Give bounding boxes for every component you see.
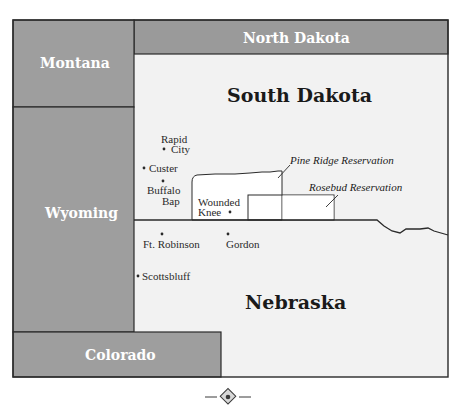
- rapid-city-dot: [163, 148, 166, 151]
- label-wyoming: Wyoming: [45, 206, 118, 220]
- ft-robinson-dot: [161, 233, 164, 236]
- label-pine-ridge: Pine Ridge Reservation: [290, 155, 394, 166]
- label-scottsbluff: Scottsbluff: [142, 271, 190, 282]
- label-rosebud: Rosebud Reservation: [309, 182, 402, 193]
- diamond-ornament-icon: [205, 389, 251, 405]
- label-montana: Montana: [40, 56, 110, 70]
- map-figure: Montana North Dakota Wyoming Colorado So…: [0, 0, 473, 406]
- region-rosebud-fill: [283, 196, 334, 220]
- label-buffalo-gap-2: Bap: [162, 196, 180, 207]
- label-north-dakota: North Dakota: [243, 31, 350, 45]
- label-custer: Custer: [149, 163, 178, 174]
- label-wounded-knee-2: Knee: [198, 207, 221, 218]
- custer-dot: [143, 167, 146, 170]
- scottsbluff-dot: [137, 275, 140, 278]
- buffalo-gap-dot: [162, 180, 165, 183]
- label-colorado: Colorado: [85, 348, 156, 362]
- label-gordon: Gordon: [226, 239, 260, 250]
- label-nebraska: Nebraska: [245, 293, 346, 312]
- gordon-dot: [227, 233, 230, 236]
- label-ft-robinson: Ft. Robinson: [143, 239, 200, 250]
- wounded-knee-dot: [229, 211, 232, 214]
- label-rapid-city-2: City: [171, 144, 190, 155]
- label-south-dakota: South Dakota: [227, 86, 372, 105]
